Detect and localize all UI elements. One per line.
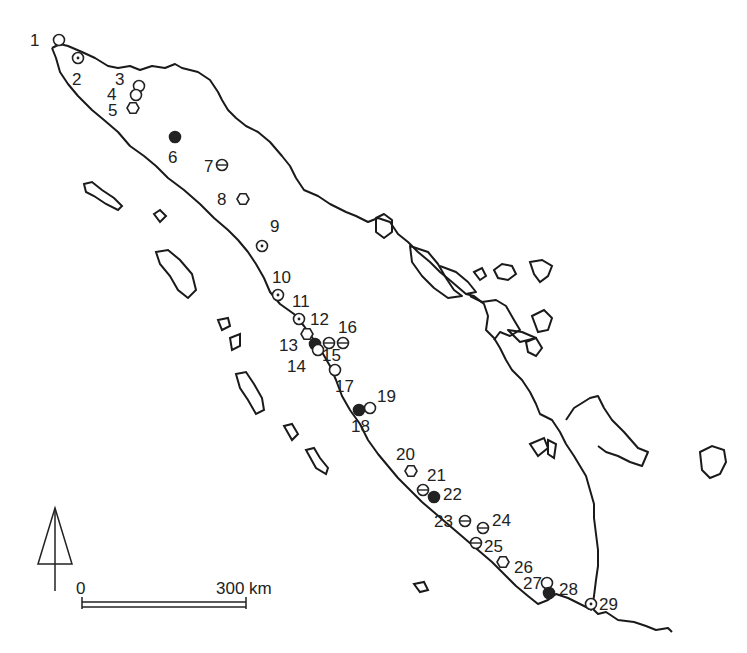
site-label: 19 (377, 387, 396, 406)
site-8: 8 (217, 190, 249, 209)
barred-circle-icon (418, 485, 429, 496)
island-banyak (154, 210, 166, 222)
filled-circle-icon (170, 132, 181, 143)
inlet-islet-1 (530, 438, 548, 456)
site-label: 1 (30, 31, 39, 50)
site-label: 29 (599, 595, 618, 614)
inlet-islet-2 (548, 440, 556, 458)
north-arrow-icon (38, 508, 72, 591)
site-16: 16 (338, 318, 357, 349)
island-siberut (236, 372, 264, 414)
open-circle-icon (54, 35, 65, 46)
site-label: 2 (72, 70, 81, 89)
site-10: 10 (272, 268, 291, 301)
hexagon-icon (127, 103, 139, 113)
site-label: 17 (335, 377, 354, 396)
island-batu (218, 318, 230, 330)
filled-circle-icon (354, 405, 365, 416)
site-25: 25 (471, 537, 503, 556)
site-3: 3 (115, 70, 145, 92)
island-sipura (284, 424, 298, 440)
scale-bar: 0 300 km (76, 579, 272, 609)
filled-circle-icon (429, 492, 440, 503)
site-2: 2 (72, 53, 84, 90)
site-7: 7 (204, 157, 228, 176)
site-label: 20 (396, 445, 415, 464)
island-simeulue (84, 182, 122, 210)
site-label: 11 (292, 292, 310, 311)
site-29: 29 (586, 595, 618, 614)
site-label: 5 (108, 101, 117, 120)
site-19: 19 (365, 387, 396, 414)
sumatra-map: 0 300 km 1234567891011121314151617181920… (0, 0, 747, 653)
site-1: 1 (30, 31, 65, 50)
site-label: 22 (443, 485, 462, 504)
site-label: 27 (523, 574, 542, 593)
site-6: 6 (168, 132, 181, 168)
site-9: 9 (257, 217, 280, 252)
dotted-circle-icon (73, 53, 84, 64)
site-label: 21 (427, 466, 446, 485)
sumatra-southwest-coast (52, 48, 592, 610)
site-label: 13 (279, 336, 298, 355)
dotted-circle-icon (257, 241, 268, 252)
site-23: 23 (434, 512, 471, 531)
site-markers: 1234567891011121314151617181920212223242… (30, 31, 618, 614)
dotted-circle-icon (294, 314, 305, 325)
barred-circle-icon (460, 516, 471, 527)
barred-circle-icon (478, 523, 489, 534)
dotted-circle-icon (586, 599, 597, 610)
site-22: 22 (429, 485, 462, 504)
island-riau-5 (474, 268, 486, 280)
site-label: 28 (559, 580, 578, 599)
bangka-strait-coast (566, 396, 648, 466)
site-20: 20 (396, 445, 417, 476)
hexagon-icon (237, 194, 249, 204)
site-24: 24 (478, 511, 511, 534)
site-label: 25 (484, 537, 503, 556)
open-circle-icon (542, 578, 553, 589)
barred-circle-icon (217, 160, 228, 171)
scale-start-label: 0 (76, 579, 85, 598)
island-nias (156, 250, 196, 298)
island-riau-2 (530, 260, 552, 282)
open-circle-icon (131, 90, 142, 101)
site-label: 16 (338, 318, 357, 337)
hexagon-icon (301, 329, 313, 339)
open-circle-icon (365, 403, 376, 414)
island-enggano (414, 582, 428, 592)
barred-circle-icon (471, 538, 482, 549)
site-label: 23 (434, 512, 453, 531)
open-circle-icon (330, 365, 341, 376)
site-label: 8 (217, 190, 226, 209)
site-17: 17 (330, 365, 354, 397)
estuary-east (440, 266, 476, 294)
filled-circle-icon (544, 588, 555, 599)
island-riau-1 (494, 264, 516, 280)
site-label: 10 (272, 268, 291, 287)
site-21: 21 (418, 466, 446, 496)
hexagon-icon (405, 466, 417, 476)
island-pagai (306, 448, 328, 474)
dotted-circle-icon (273, 290, 284, 301)
site-5: 5 (108, 101, 139, 120)
estuary-north (376, 214, 392, 238)
site-label: 6 (168, 148, 177, 167)
island-batu-2 (230, 334, 240, 350)
site-label: 9 (270, 217, 279, 236)
barred-circle-icon (338, 338, 349, 349)
scale-end-label: 300 km (216, 579, 272, 598)
site-label: 14 (287, 357, 306, 376)
sumatra-coastline (52, 44, 672, 632)
island-riau-4 (526, 338, 542, 356)
site-label: 18 (351, 417, 370, 436)
island-riau-3 (532, 310, 552, 332)
site-label: 15 (322, 346, 341, 365)
site-label: 12 (310, 310, 329, 329)
site-label: 7 (204, 157, 213, 176)
site-label: 24 (492, 511, 511, 530)
hexagon-icon (497, 557, 509, 567)
site-11: 11 (292, 292, 310, 325)
bangka-island (700, 446, 726, 478)
site-12: 12 (301, 310, 329, 339)
